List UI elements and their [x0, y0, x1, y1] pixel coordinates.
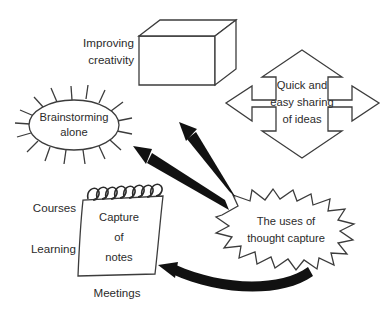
concept-map-svg: Improving creativity — [0, 0, 384, 318]
notepad-label-line-3: notes — [105, 251, 133, 263]
cube-label-line-1: Improving — [83, 36, 134, 49]
notepad-side-label-meetings: Meetings — [93, 286, 140, 299]
notepad-label-line-2: of — [114, 231, 124, 243]
diagram-canvas: Improving creativity — [0, 0, 384, 318]
ellipse-label-line-2: alone — [60, 126, 87, 138]
starburst-label-line-1: The uses of — [257, 215, 316, 227]
four-way-label-line-1: Quick and — [277, 79, 327, 91]
notepad-label-line-1: Capture — [99, 211, 139, 223]
connector-center-to-capture-of-notes — [158, 262, 313, 292]
starburst-label-line-2: thought capture — [247, 232, 325, 244]
notepad-side-label-learning: Learning — [31, 242, 76, 255]
notepad-side-label-courses: Courses — [33, 201, 76, 214]
cube-shape-improving-creativity — [139, 20, 236, 85]
ellipse-label-line-1: Brainstorming — [39, 111, 108, 123]
spiked-ellipse-brainstorming-alone — [15, 85, 132, 164]
starburst-shape-uses-of-thought-capture — [216, 189, 354, 270]
four-way-label-line-3: of ideas — [282, 113, 322, 125]
cube-label-line-2: creativity — [88, 53, 134, 66]
connector-center-to-improving-creativity — [179, 122, 236, 198]
starburst-outline — [216, 189, 354, 270]
four-way-label-line-2: easy sharing — [270, 96, 333, 108]
cube-front-face — [139, 36, 215, 85]
